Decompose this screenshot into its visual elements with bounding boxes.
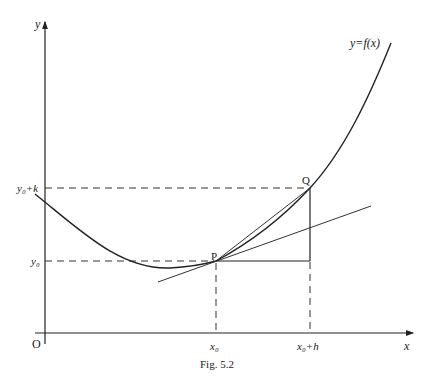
y0-tick-label: y₀ (30, 255, 40, 267)
point-q-label: Q (302, 174, 310, 186)
point-p-label: P (211, 250, 217, 262)
x0h-tick-label: x₀+h (296, 340, 319, 352)
curve-f (35, 43, 391, 268)
figure-caption: Fig. 5.2 (200, 358, 234, 370)
tangent-line (158, 206, 371, 282)
origin-label: O (32, 337, 41, 351)
y0k-tick-label: y₀+k (16, 182, 39, 194)
y-axis-label: y (34, 17, 41, 31)
curve-label: y=f(x) (349, 36, 380, 50)
x0-tick-label: x₀ (209, 340, 219, 352)
secant-line (216, 188, 310, 261)
derivative-diagram: y x O y=f(x) P Q x₀ x₀+h y₀ y₀+k Fig. 5.… (0, 0, 426, 383)
x-axis-label: x (403, 339, 410, 353)
